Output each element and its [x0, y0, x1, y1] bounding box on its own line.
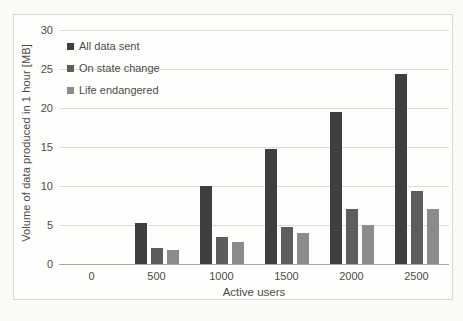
bar-on-state-change-1000 — [216, 237, 228, 264]
bar-all-data-sent-2000 — [330, 112, 342, 264]
y-tick-label-20: 20 — [14, 102, 53, 114]
y-tick-label-25: 25 — [14, 63, 53, 75]
x-tick-label-1000: 1000 — [192, 270, 252, 282]
x-tick-label-2500: 2500 — [387, 270, 447, 282]
bar-on-state-change-500 — [151, 248, 163, 264]
y-tick-label-30: 30 — [14, 24, 53, 36]
bar-all-data-sent-2500 — [395, 74, 407, 264]
bar-on-state-change-2000 — [346, 209, 358, 264]
bar-all-data-sent-500 — [135, 223, 147, 264]
bar-on-state-change-1500 — [281, 227, 293, 264]
chart-frame: Volume of data produced in 1 hour [MB] 0… — [13, 14, 453, 300]
legend-marker-icon — [67, 43, 74, 50]
bar-life-endangered-2000 — [362, 225, 374, 264]
gridline-30 — [59, 30, 449, 31]
bar-all-data-sent-1500 — [265, 149, 277, 264]
bar-life-endangered-1500 — [297, 233, 309, 264]
gridline-10 — [59, 186, 449, 187]
legend-item-on-state-change: On state change — [67, 61, 160, 75]
gridline-5 — [59, 225, 449, 226]
bar-on-state-change-2500 — [411, 191, 423, 264]
legend-item-all-data-sent: All data sent — [67, 39, 140, 53]
x-axis-line — [59, 264, 449, 265]
y-tick-label-15: 15 — [14, 141, 53, 153]
x-axis-title: Active users — [59, 286, 449, 298]
x-tick-label-0: 0 — [62, 270, 122, 282]
bar-all-data-sent-1000 — [200, 186, 212, 264]
y-tick-label-0: 0 — [14, 258, 53, 270]
legend-marker-icon — [67, 65, 74, 72]
legend-label: Life endangered — [79, 84, 159, 96]
legend-marker-icon — [67, 87, 74, 94]
legend-item-life-endangered: Life endangered — [67, 83, 159, 97]
bar-life-endangered-1000 — [232, 242, 244, 264]
bar-life-endangered-2500 — [427, 209, 439, 264]
x-tick-label-2000: 2000 — [322, 270, 382, 282]
x-tick-label-1500: 1500 — [257, 270, 317, 282]
gridline-15 — [59, 147, 449, 148]
y-tick-label-5: 5 — [14, 219, 53, 231]
x-tick-label-500: 500 — [127, 270, 187, 282]
bar-life-endangered-500 — [167, 250, 179, 264]
y-tick-label-10: 10 — [14, 180, 53, 192]
gridline-20 — [59, 108, 449, 109]
legend-label: On state change — [79, 62, 160, 74]
legend-label: All data sent — [79, 40, 140, 52]
